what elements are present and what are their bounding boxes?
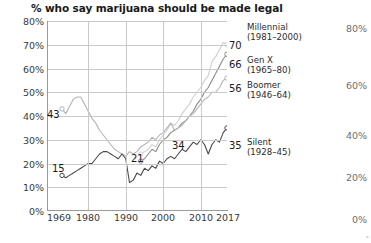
legend-item-millennial: Millennial (1981–2000) xyxy=(247,23,302,42)
legend-item-silent: Silent (1928–45) xyxy=(247,138,291,157)
x-tick-label: 1990 xyxy=(114,212,138,223)
y-tick-label: 50% xyxy=(23,87,44,98)
y-tick-label: 10% xyxy=(23,182,44,193)
y-axis-left: 80% 70% 60% 50% 40% 30% 20% 10% 0% xyxy=(0,21,44,211)
inline-label-boomer-43: 43 xyxy=(47,109,60,120)
legend-years-genx: (1965–80) xyxy=(247,66,291,76)
series-line xyxy=(141,42,227,154)
y-right-tick-label: 40% xyxy=(346,130,367,141)
inline-label-genx-21: 21 xyxy=(131,153,144,164)
corner-mark: ° xyxy=(366,235,370,243)
x-tick-label: 2017 xyxy=(216,212,240,223)
end-value-genx: 66 xyxy=(229,59,242,70)
gridline-vertical xyxy=(88,21,89,211)
series-end-marker xyxy=(225,126,227,130)
y-tick-label: 0% xyxy=(29,206,44,217)
inline-label-silent-15: 15 xyxy=(52,163,65,174)
x-tick-label: 1980 xyxy=(76,212,100,223)
x-tick-label: 1969 xyxy=(47,212,71,223)
legend-years-silent: (1928–45) xyxy=(247,148,291,158)
series-end-marker xyxy=(225,52,227,56)
y-right-tick-label: 80% xyxy=(346,23,367,34)
x-tick-label: 2000 xyxy=(151,212,175,223)
legend-item-genx: Gen X (1965–80) xyxy=(247,56,291,75)
y-right-tick-label: 60% xyxy=(346,80,367,91)
y-tick-label: 30% xyxy=(23,134,44,145)
series-line xyxy=(62,128,227,183)
end-value-silent: 35 xyxy=(229,140,242,151)
series-start-marker xyxy=(60,173,64,177)
y-tick-label: 20% xyxy=(23,158,44,169)
y-tick-label: 40% xyxy=(23,111,44,122)
legend-item-boomer: Boomer (1946–64) xyxy=(247,81,291,100)
x-axis-spine xyxy=(47,210,228,211)
chart-title: % who say marijuana should be made legal xyxy=(31,2,283,14)
series-end-marker xyxy=(225,76,227,80)
plot-area xyxy=(47,21,227,211)
series-line xyxy=(62,78,227,156)
legend-years-millennial: (1981–2000) xyxy=(247,33,302,43)
series-start-marker xyxy=(60,107,64,111)
chart-container: % who say marijuana should be made legal… xyxy=(0,0,371,243)
end-value-boomer: 56 xyxy=(229,83,242,94)
y-right-tick-label: 20% xyxy=(346,172,367,183)
y-tick-label: 60% xyxy=(23,63,44,74)
end-value-millennial: 70 xyxy=(229,40,242,51)
inline-label-boomer-34: 34 xyxy=(172,140,185,151)
y-right-tick-label: 0% xyxy=(352,214,367,225)
gridline-vertical xyxy=(163,21,164,211)
y-tick-label: 70% xyxy=(23,39,44,50)
gridline-vertical xyxy=(201,21,202,211)
y-tick-label: 80% xyxy=(23,16,44,27)
gridline-vertical xyxy=(126,21,127,211)
x-tick-label: 2010 xyxy=(189,212,213,223)
legend-years-boomer: (1946–64) xyxy=(247,91,291,101)
